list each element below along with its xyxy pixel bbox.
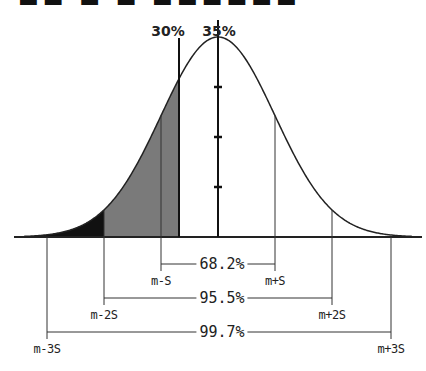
normal-curve-chart bbox=[0, 0, 426, 371]
m-plus-3s-label: m+3S bbox=[378, 343, 405, 355]
interval-99-label: 99.7% bbox=[196, 325, 247, 340]
mean-label: 35% bbox=[202, 24, 236, 38]
interval-95-label: 95.5% bbox=[196, 291, 247, 306]
threshold-label: 30% bbox=[151, 24, 185, 38]
m-plus-1s-label: m+S bbox=[265, 275, 285, 287]
interval-68-label: 68.2% bbox=[196, 257, 247, 272]
normal-distribution-figure: ■■ ■ ■ ■■■■■■ 30% 35% 68.2% 95.5% 99.7% … bbox=[0, 0, 426, 371]
m-plus-2s-label: m+2S bbox=[319, 309, 346, 321]
m-minus-3s-label: m-3S bbox=[34, 343, 61, 355]
m-minus-2s-label: m-2S bbox=[91, 309, 118, 321]
tail-region-dark bbox=[24, 210, 104, 237]
m-minus-1s-label: m-S bbox=[151, 275, 171, 287]
